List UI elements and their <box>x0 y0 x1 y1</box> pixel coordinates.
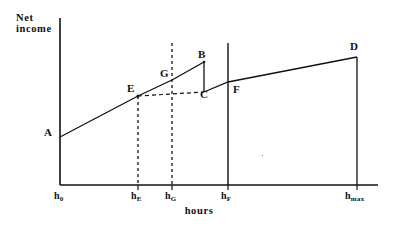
tick-label-hG-base: h <box>165 190 171 201</box>
x-axis-title: hours <box>0 205 398 216</box>
y-axis-title-line1: Net <box>16 12 60 23</box>
tick-label-hE-sub: E <box>137 195 142 203</box>
segment-C-F-D <box>204 57 357 92</box>
point-label-F: F <box>233 84 240 96</box>
tick-label-hG-sub: G <box>171 195 177 203</box>
point-label-C: C <box>200 89 208 101</box>
net-income-hours-figure: Net income hours A E G B C F D h0 hE hG … <box>0 0 398 231</box>
tick-label-hF: hF <box>221 191 231 202</box>
tick-label-h0: h0 <box>54 191 64 202</box>
tick-label-hE: hE <box>131 191 142 202</box>
point-marker-B <box>203 61 206 64</box>
y-axis-title-line2: income <box>16 23 60 34</box>
tick-label-hE-base: h <box>131 190 137 201</box>
tick-label-hF-base: h <box>221 190 227 201</box>
point-marker-E <box>137 95 140 98</box>
tick-label-hG: hG <box>165 191 177 202</box>
tick-label-h0-sub: 0 <box>60 195 64 203</box>
tick-label-hmax: hmax <box>345 191 365 202</box>
tick-label-hmax-sub: max <box>351 195 365 203</box>
tick-label-h0-base: h <box>54 190 60 201</box>
segment-G-B <box>172 62 204 80</box>
segment-E-C-dashed <box>138 92 204 96</box>
point-label-A: A <box>44 127 52 139</box>
point-label-G: G <box>160 68 169 80</box>
point-label-B: B <box>198 49 205 61</box>
point-label-D: D <box>350 41 358 53</box>
point-label-E: E <box>127 83 134 95</box>
tick-label-hF-sub: F <box>227 195 232 203</box>
y-axis-title: Net income <box>16 12 60 34</box>
segment-A-E-G <box>60 80 172 137</box>
scan-speck <box>262 155 263 156</box>
tick-label-hmax-base: h <box>345 190 351 201</box>
